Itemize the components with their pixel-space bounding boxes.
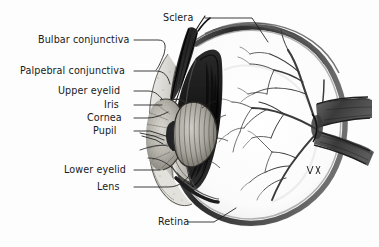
label-retina: Retina bbox=[158, 217, 189, 227]
eye-anatomy-figure: Sclera Bulbar conjunctiva Palpebral conj… bbox=[0, 0, 379, 247]
label-upper-eyelid: Upper eyelid bbox=[58, 86, 120, 96]
label-lower-eyelid: Lower eyelid bbox=[64, 165, 126, 175]
label-sclera: Sclera bbox=[163, 13, 193, 23]
label-bulbar-conjunctiva: Bulbar conjunctiva bbox=[38, 35, 129, 45]
label-pupil: Pupil bbox=[93, 126, 117, 136]
label-palpebral-conjunctiva: Palpebral conjunctiva bbox=[20, 66, 125, 76]
label-iris: Iris bbox=[104, 100, 119, 110]
label-cornea: Cornea bbox=[87, 113, 122, 123]
label-lens: Lens bbox=[97, 182, 120, 192]
